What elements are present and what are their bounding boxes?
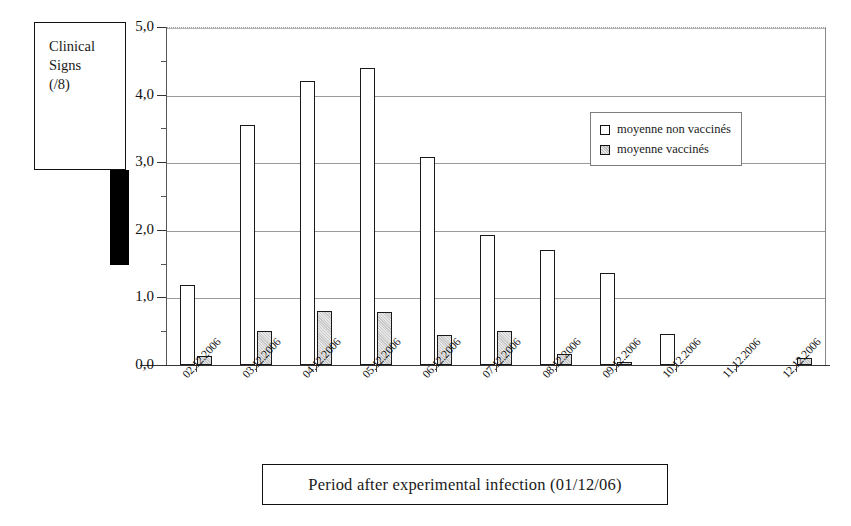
bar-non-vaccines-06.12.2006	[420, 157, 435, 365]
y-axis-title-line-3: (/8)	[49, 75, 125, 94]
y-minor-tick-mark	[161, 331, 166, 332]
bar-non-vaccines-04.12.2006	[300, 81, 315, 365]
y-tick-label-1,0: 1,0	[108, 288, 154, 305]
legend-item-vaccinated[interactable]: moyenne vaccinés	[600, 143, 731, 156]
y-tick-label-0,0: 0,0	[108, 356, 154, 373]
y-tick-mark-4,0	[157, 95, 166, 96]
legend-label-vaccinated: moyenne vaccinés	[617, 143, 709, 156]
y-axis-title-box: Clinical Signs (/8)	[34, 22, 126, 170]
bar-chart: Clinical Signs (/8) 0,01,02,03,04,05,0 0…	[0, 0, 851, 526]
y-axis-pointer-bar	[110, 170, 129, 265]
chart-legend[interactable]: moyenne non vaccinés moyenne vaccinés	[590, 112, 742, 166]
white-square-icon	[600, 125, 610, 135]
y-tick-mark-0,0	[157, 365, 166, 366]
bar-non-vaccines-02.12.2006	[180, 285, 195, 365]
y-tick-mark-3,0	[157, 162, 166, 163]
bar-non-vaccines-09.12.2006	[600, 273, 615, 365]
legend-label-unvaccinated: moyenne non vaccinés	[617, 123, 731, 136]
x-axis-title-box: Period after experimental infection (01/…	[262, 464, 668, 505]
y-axis-title-line-1: Clinical	[49, 37, 125, 56]
y-tick-mark-5,0	[157, 27, 166, 28]
bars-layer	[166, 27, 826, 365]
y-minor-tick-mark	[161, 196, 166, 197]
y-tick-mark-1,0	[157, 297, 166, 298]
legend-item-unvaccinated[interactable]: moyenne non vaccinés	[600, 123, 731, 136]
bar-non-vaccines-03.12.2006	[240, 125, 255, 365]
hatched-square-icon	[600, 145, 610, 155]
bar-non-vaccines-05.12.2006	[360, 68, 375, 365]
y-minor-tick-mark	[161, 264, 166, 265]
y-minor-tick-mark	[161, 61, 166, 62]
bar-non-vaccines-07.12.2006	[480, 235, 495, 365]
bar-non-vaccines-08.12.2006	[540, 250, 555, 365]
x-axis-category-labels: 02.12.200603.12.200604.12.200605.12.2006…	[166, 372, 826, 452]
x-axis-title-text: Period after experimental infection (01/…	[308, 475, 621, 495]
y-tick-mark-2,0	[157, 230, 166, 231]
y-axis-title-line-2: Signs	[49, 56, 125, 75]
y-minor-tick-mark	[161, 128, 166, 129]
